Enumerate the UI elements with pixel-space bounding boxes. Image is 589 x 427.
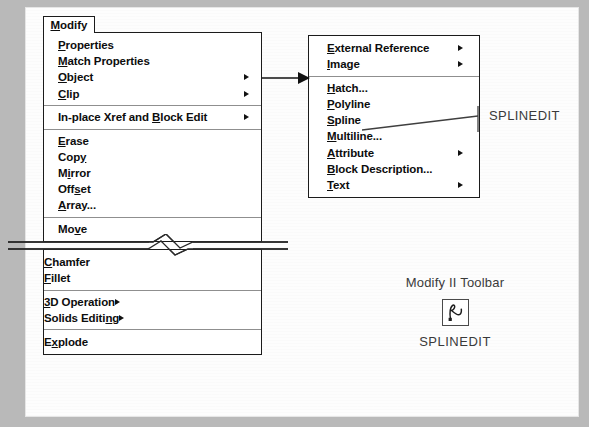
modify-menu-item-array[interactable]: Array...	[44, 197, 261, 213]
submenu-chevron-right-icon	[458, 150, 463, 156]
menu-item-label: Fillet	[44, 270, 70, 286]
modify-menu-item-explode[interactable]: Explode	[44, 334, 261, 350]
modify-menu-item-fillet[interactable]: Fillet	[44, 270, 261, 286]
modify-menu-item-match-properties[interactable]: Match Properties	[44, 53, 261, 69]
menu-item-label: Hatch...	[327, 80, 368, 96]
menu-item-label: Attribute	[327, 145, 374, 161]
modify-menu-item-3d-operation[interactable]: 3D Operation	[44, 294, 261, 310]
menu-item-label: 3D Operation	[44, 294, 115, 310]
menu-item-label: Spline	[327, 112, 361, 128]
connector-arrow-icon	[262, 70, 310, 86]
menu-tab-modify-label: Modify	[50, 19, 87, 31]
submenu-chevron-right-icon	[244, 74, 249, 80]
modify-menu-item-offset[interactable]: Offset	[44, 181, 261, 197]
menu-break-symbol	[8, 234, 288, 260]
modify-menu-item-in-place-xref-and-block-edit[interactable]: In-place Xref and Block Edit	[44, 109, 261, 125]
submenu-chevron-right-icon	[119, 315, 124, 321]
splinedit-callout-label: SPLINEDIT	[489, 108, 560, 123]
splinedit-toolbar-button[interactable]	[442, 299, 469, 326]
menu-separator	[309, 76, 479, 77]
menu-item-label: Text	[327, 177, 349, 193]
object-submenu-item-text[interactable]: Text	[309, 177, 479, 193]
menu-item-label: In-place Xref and Block Edit	[58, 109, 207, 125]
modify-menu-item-solids-editing[interactable]: Solids Editing	[44, 310, 261, 326]
menu-item-label: Mirror	[58, 165, 91, 181]
menu-item-label: Explode	[44, 334, 88, 350]
submenu-chevron-right-icon	[244, 91, 249, 97]
modify-dropdown-menu-lower[interactable]: ChamferFillet3D OperationSolids EditingE…	[43, 249, 262, 355]
menu-item-label: Match Properties	[58, 53, 150, 69]
submenu-chevron-right-icon	[458, 182, 463, 188]
menu-item-label: Properties	[58, 37, 114, 53]
splinedit-leader-line	[360, 104, 490, 138]
menu-item-label: External Reference	[327, 40, 429, 56]
modify-menu-item-properties[interactable]: Properties	[44, 37, 261, 53]
menu-item-label: Offset	[58, 181, 91, 197]
menu-separator	[44, 217, 261, 218]
menu-item-label: Object	[58, 69, 93, 85]
modify-menu-item-mirror[interactable]: Mirror	[44, 165, 261, 181]
menu-item-label: Image	[327, 56, 360, 72]
object-submenu-item-block-description[interactable]: Block Description...	[309, 161, 479, 177]
modify-menu-item-object[interactable]: Object	[44, 69, 261, 85]
menu-item-label: Array...	[58, 197, 96, 213]
menu-item-label: Erase	[58, 133, 89, 149]
menu-item-label: Clip	[58, 86, 79, 102]
submenu-chevron-right-icon	[115, 299, 120, 305]
splinedit-toolbar-caption: SPLINEDIT	[380, 334, 530, 349]
modify-ii-toolbar-block: Modify II Toolbar SPLINEDIT	[380, 275, 530, 349]
menu-separator	[44, 129, 261, 130]
submenu-chevron-right-icon	[244, 114, 249, 120]
object-submenu-item-image[interactable]: Image	[309, 56, 479, 72]
splinedit-spline-icon	[443, 300, 468, 325]
menu-separator	[44, 105, 261, 106]
modify-menu-item-erase[interactable]: Erase	[44, 133, 261, 149]
menu-tab-modify[interactable]: Modify	[43, 16, 95, 33]
modify-menu-item-clip[interactable]: Clip	[44, 86, 261, 102]
object-submenu-item-hatch[interactable]: Hatch...	[309, 80, 479, 96]
object-submenu-item-external-reference[interactable]: External Reference	[309, 40, 479, 56]
menu-item-label: Solids Editing	[44, 310, 119, 326]
menu-item-label: Block Description...	[327, 161, 432, 177]
menu-item-label: Copy	[58, 149, 86, 165]
modify-menu-item-copy[interactable]: Copy	[44, 149, 261, 165]
submenu-chevron-right-icon	[458, 45, 463, 51]
menu-separator	[44, 329, 261, 330]
object-submenu-item-attribute[interactable]: Attribute	[309, 145, 479, 161]
menu-separator	[44, 290, 261, 291]
modify-ii-toolbar-title: Modify II Toolbar	[380, 275, 530, 290]
modify-dropdown-menu[interactable]: PropertiesMatch PropertiesObjectClipIn-p…	[43, 32, 262, 242]
submenu-chevron-right-icon	[458, 61, 463, 67]
